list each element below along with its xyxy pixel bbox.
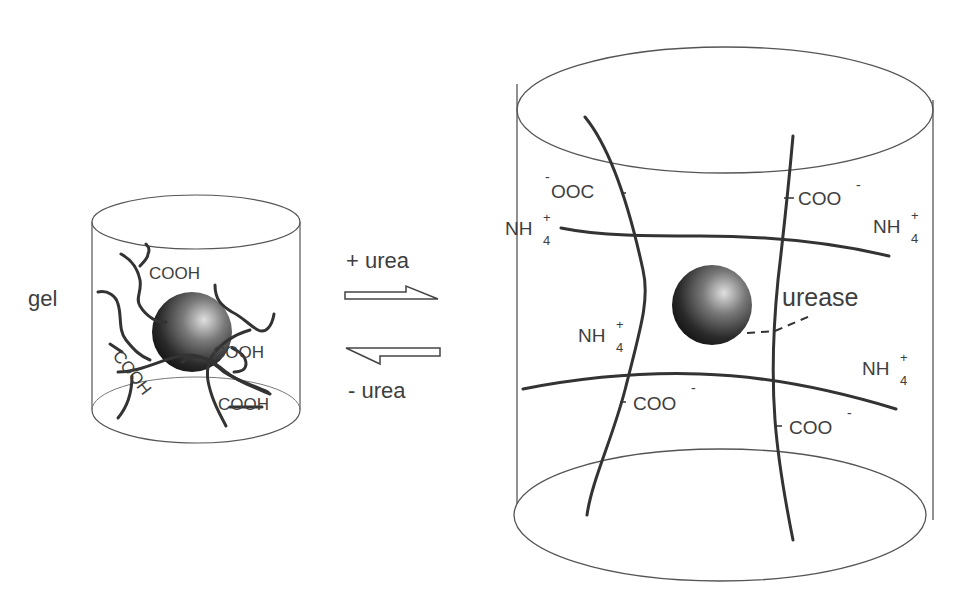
svg-text:+: + bbox=[543, 210, 551, 225]
svg-text:4: 4 bbox=[911, 231, 918, 246]
svg-text:COO: COO bbox=[633, 393, 676, 414]
svg-text:COO: COO bbox=[789, 417, 832, 438]
carboxylate-label-lower-right: COO - bbox=[774, 405, 852, 438]
carboxylate-label-lower-left: COO - bbox=[620, 380, 696, 414]
svg-text:-: - bbox=[691, 380, 696, 396]
carboxylate-label-upper-left: - OOC bbox=[545, 169, 626, 202]
svg-text:-: - bbox=[847, 405, 852, 421]
svg-text:NH: NH bbox=[862, 358, 889, 379]
svg-text:+: + bbox=[616, 317, 624, 332]
enzyme-pointer-line bbox=[747, 316, 810, 333]
carboxyl-group-label: COOH bbox=[218, 395, 269, 414]
svg-text:OOC: OOC bbox=[551, 181, 594, 202]
carboxyl-group-label: COOH bbox=[149, 264, 200, 283]
enzyme-sphere-large bbox=[672, 265, 752, 345]
forward-arrow-icon bbox=[345, 286, 438, 299]
ammonium-label-upper-right: NH + 4 bbox=[873, 208, 919, 246]
svg-text:-: - bbox=[856, 177, 861, 193]
svg-text:NH: NH bbox=[505, 218, 532, 239]
add-urea-label: + urea bbox=[346, 248, 410, 273]
diagram-canvas: gel COOH COOH COOH COOH + urea - urea ur… bbox=[0, 0, 979, 606]
svg-text:4: 4 bbox=[900, 373, 907, 388]
carboxylate-label-upper-right: COO - bbox=[784, 177, 861, 209]
svg-text:+: + bbox=[911, 208, 919, 223]
ammonium-label-middle-left: NH + 4 bbox=[578, 317, 624, 355]
svg-text:NH: NH bbox=[578, 325, 605, 346]
gel-label: gel bbox=[28, 286, 57, 311]
svg-text:4: 4 bbox=[616, 340, 623, 355]
svg-text:-: - bbox=[545, 169, 550, 185]
remove-urea-label: - urea bbox=[348, 378, 406, 403]
reverse-arrow-icon bbox=[346, 348, 440, 364]
ammonium-label-upper-left: NH + 4 bbox=[505, 210, 551, 248]
carboxyl-group-label: COOH bbox=[213, 343, 264, 362]
urease-label: urease bbox=[782, 283, 858, 311]
svg-text:4: 4 bbox=[543, 233, 550, 248]
svg-text:+: + bbox=[900, 350, 908, 365]
ammonium-label-middle-right: NH + 4 bbox=[862, 350, 908, 388]
svg-text:COO: COO bbox=[798, 188, 841, 209]
svg-text:NH: NH bbox=[873, 216, 900, 237]
